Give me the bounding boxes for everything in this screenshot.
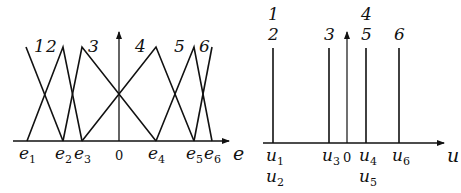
singleton-label-1: 1	[268, 4, 279, 24]
singleton-label-6: 6	[394, 24, 405, 44]
right-origin-label: 0	[343, 150, 351, 165]
tick-label-e2: e2	[55, 143, 72, 166]
singleton-label-4: 4	[360, 4, 372, 24]
mf-label-2: 2	[45, 36, 57, 56]
tick-label-e6: e6	[204, 143, 221, 166]
mf-label-6: 6	[199, 36, 210, 56]
mf-label-3: 3	[88, 36, 99, 56]
membership-function-2	[27, 47, 82, 141]
u-axis-label: u	[447, 144, 459, 166]
singleton-label-3: 3	[324, 24, 335, 44]
singleton-label-2: 2	[267, 24, 279, 44]
singletons: 12u1u23u345u4u56u6	[266, 4, 410, 189]
left-diagram: 1 2 3 4 5 6 0 e e1e2e3e4e5e6	[13, 32, 244, 166]
tick-label-e3: e3	[74, 143, 91, 166]
e-axis-label: e	[233, 142, 244, 164]
tick-label-u6: u6	[392, 145, 410, 168]
membership-function-3	[63, 47, 156, 141]
tick-label-u1: u1	[266, 145, 284, 168]
singleton-label-5: 5	[361, 24, 372, 44]
mf-label-4: 4	[134, 36, 146, 56]
mf-label-1: 1	[34, 36, 45, 56]
left-origin-label: 0	[115, 148, 123, 163]
tick-label-e4: e4	[148, 143, 165, 166]
tick-label-u5: u5	[359, 166, 377, 189]
mf-label-5: 5	[174, 36, 185, 56]
tick-label-e5: e5	[186, 143, 203, 166]
tick-label-e1: e1	[19, 143, 36, 166]
tick-label-u2: u2	[266, 166, 284, 189]
tick-label-u4: u4	[359, 145, 377, 168]
membership-function-4	[82, 47, 194, 141]
fuzzy-sets-figure: 1 2 3 4 5 6 0 e e1e2e3e4e5e6 12u1u23u345…	[0, 0, 461, 193]
right-diagram: 12u1u23u345u4u56u6 0 u	[263, 4, 459, 189]
tick-label-u3: u3	[322, 145, 340, 168]
